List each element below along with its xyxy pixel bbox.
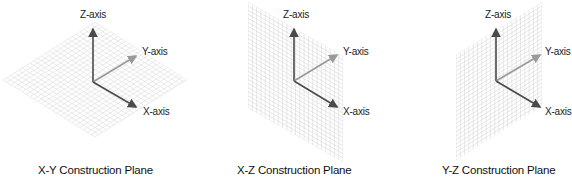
x-axis-label: X-axis [143,106,170,117]
y-axis-label: Y-axis [142,46,168,57]
x-axis-label: X-axis [545,106,572,117]
y-axis-arrow [93,56,136,82]
z-axis-label: Z-axis [80,9,106,20]
xy-plane-caption: X-Y Construction Plane [38,164,153,176]
yz-plane-grid [380,0,572,185]
yz-plane-caption: Y-Z Construction Plane [442,164,555,176]
xy-plane-panel: Z-axis Y-axis X-axis X-Y Construction Pl… [0,0,190,185]
z-axis-label: Z-axis [283,9,309,20]
x-axis-arrow [93,82,136,107]
xz-plane-grid [190,0,380,185]
xy-plane-grid [0,0,190,185]
xz-plane-caption: X-Z Construction Plane [237,164,352,176]
yz-plane-panel: Z-axis Y-axis X-axis Y-Z Construction Pl… [380,0,572,185]
x-axis-label: X-axis [343,106,370,117]
y-axis-label: Y-axis [545,46,571,57]
y-axis-label: Y-axis [343,46,369,57]
xz-plane-panel: Z-axis Y-axis X-axis X-Z Construction Pl… [190,0,380,185]
z-axis-label: Z-axis [485,9,511,20]
